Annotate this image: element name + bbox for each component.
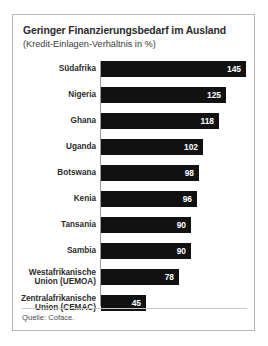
bar-value-label: 125 [207,91,221,100]
bar-row: Westafrikanische Union (UEMOA) 78 [13,269,256,285]
source-label: Quelle: Coface. [22,313,74,322]
bar-value-label: 90 [177,247,186,256]
bar-track: 118 [101,113,219,129]
bar-track: 96 [101,191,197,207]
bar-value-label: 118 [200,117,214,126]
bar-track: 98 [101,165,199,181]
bar-row: Nigeria 125 [13,87,256,103]
bar-track: 125 [101,87,226,103]
bar-category-label-line1: Ghana [71,116,96,125]
bar-category-label-line1: Sambia [67,246,96,255]
bar-category-label-line1: Uganda [66,142,96,151]
bar-row: Sambia 90 [13,243,256,259]
bar-fill: 90 [101,243,191,259]
bar-category-label-line1: Botswana [57,168,96,177]
bar-fill: 78 [101,269,179,285]
bar-fill: 90 [101,217,191,233]
bar-category-label: Südafrika [18,65,96,74]
bar-category-label-line1: Westafrikanische [29,268,96,277]
bar-row: Tansania 90 [13,217,256,233]
bar-row: Südafrika 145 [13,61,256,77]
bar-category-label: Botswana [18,169,96,178]
bar-track: 102 [101,139,203,155]
bar-fill: 102 [101,139,203,155]
bar-category-label: Tansania [18,221,96,230]
chart-footer: Quelle: Coface. [13,308,256,330]
bar-value-label: 45 [132,299,141,308]
bar-value-label: 145 [227,65,241,74]
bar-track: 145 [101,61,246,77]
bar-track: 90 [101,243,191,259]
bar-category-label: Kenia [18,195,96,204]
bar-fill: 145 [101,61,246,77]
bar-category-label-line1: Kenia [74,194,96,203]
bar-value-label: 98 [185,169,194,178]
chart-subtitle: (Kredit-Einlagen-Verhältnis in %) [23,38,244,51]
bar-value-label: 96 [183,195,192,204]
bar-row: Uganda 102 [13,139,256,155]
bar-fill: 98 [101,165,199,181]
bar-category-label-line1: Zentralafrikanische [21,294,96,303]
bar-row: Ghana 118 [13,113,256,129]
bar-category-label: Sambia [18,247,96,256]
bar-track: 78 [101,269,179,285]
footer-divider [22,308,247,309]
chart-header: Geringer Finanzierungsbedarf im Ausland … [13,15,254,51]
bar-category-label-line1: Nigeria [68,90,96,99]
bar-track: 90 [101,217,191,233]
bar-category-label-line2: Union (UEMOA) [35,277,96,286]
bar-fill: 118 [101,113,219,129]
chart-title: Geringer Finanzierungsbedarf im Ausland [23,24,244,37]
bar-category-label-line1: Südafrika [59,64,96,73]
bar-category-label: Uganda [18,143,96,152]
bar-value-label: 78 [165,273,174,282]
bar-value-label: 102 [184,143,198,152]
bar-category-label: Ghana [18,117,96,126]
bar-category-label: Nigeria [18,91,96,100]
bar-value-label: 90 [177,221,186,230]
bar-row: Botswana 98 [13,165,256,181]
chart-plot-area: Südafrika 145 Nigeria 125 Ghana [13,59,256,309]
bar-fill: 125 [101,87,226,103]
bar-category-label-line1: Tansania [61,220,96,229]
bar-row: Kenia 96 [13,191,256,207]
bar-fill: 96 [101,191,197,207]
chart-card: Geringer Finanzierungsbedarf im Ausland … [12,14,255,331]
bar-category-label: Westafrikanische Union (UEMOA) [18,268,96,286]
